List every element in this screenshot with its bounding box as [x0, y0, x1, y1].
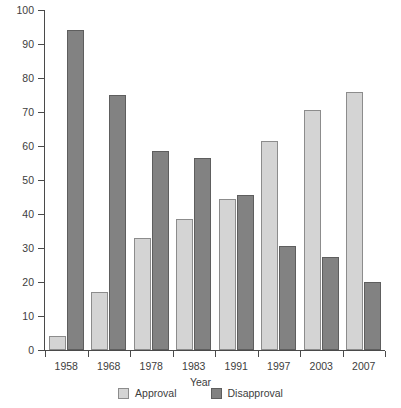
bar-disapproval-1997 — [279, 246, 296, 350]
bar-disapproval-1958 — [67, 30, 84, 350]
x-tick — [45, 351, 46, 357]
y-tick — [38, 214, 44, 215]
bar-disapproval-1968 — [109, 95, 126, 350]
x-tick — [88, 351, 89, 357]
legend-swatch-disapproval — [211, 388, 222, 399]
y-tick-label: 30 — [0, 243, 34, 254]
x-tick — [173, 351, 174, 357]
x-tick-label: 2007 — [339, 361, 389, 372]
bar-chart: 0102030405060708090100 19581968197819831… — [0, 0, 401, 408]
y-tick-label: 50 — [0, 175, 34, 186]
bar-disapproval-2007 — [364, 282, 381, 350]
bar-approval-1978 — [134, 238, 151, 350]
bar-disapproval-1991 — [237, 195, 254, 350]
x-tick — [343, 351, 344, 357]
x-tick — [300, 351, 301, 357]
y-tick-label: 10 — [0, 311, 34, 322]
y-tick — [38, 350, 44, 351]
y-tick — [38, 316, 44, 317]
y-tick — [38, 10, 44, 11]
y-tick — [38, 146, 44, 147]
legend-item-approval[interactable]: Approval — [118, 388, 176, 399]
y-tick-label: 90 — [0, 39, 34, 50]
bar-disapproval-2003 — [322, 257, 339, 351]
bar-approval-1958 — [49, 336, 66, 350]
y-tick — [38, 112, 44, 113]
bar-approval-1991 — [219, 199, 236, 350]
y-tick-label: 40 — [0, 209, 34, 220]
bars-layer — [45, 10, 385, 350]
x-tick — [215, 351, 216, 357]
y-tick — [38, 78, 44, 79]
y-tick — [38, 248, 44, 249]
bar-disapproval-1978 — [152, 151, 169, 350]
x-tick — [130, 351, 131, 357]
y-tick-label: 0 — [0, 345, 34, 356]
y-tick-label: 60 — [0, 141, 34, 152]
bar-disapproval-1983 — [194, 158, 211, 350]
x-axis-title: Year — [0, 376, 401, 388]
legend-label: Approval — [135, 388, 176, 399]
chart-legend: ApprovalDisapproval — [0, 388, 401, 399]
bar-approval-2003 — [304, 110, 321, 350]
x-tick — [385, 351, 386, 357]
y-tick — [38, 180, 44, 181]
y-tick-label: 80 — [0, 73, 34, 84]
bar-approval-1983 — [176, 219, 193, 350]
y-tick-label: 100 — [0, 5, 34, 16]
x-tick — [258, 351, 259, 357]
legend-label: Disapproval — [228, 388, 283, 399]
y-tick — [38, 44, 44, 45]
bar-approval-2007 — [346, 92, 363, 350]
y-tick-label: 20 — [0, 277, 34, 288]
legend-item-disapproval[interactable]: Disapproval — [211, 388, 283, 399]
legend-swatch-approval — [118, 388, 129, 399]
bar-approval-1997 — [261, 141, 278, 350]
y-tick — [38, 282, 44, 283]
bar-approval-1968 — [91, 292, 108, 350]
y-tick-label: 70 — [0, 107, 34, 118]
